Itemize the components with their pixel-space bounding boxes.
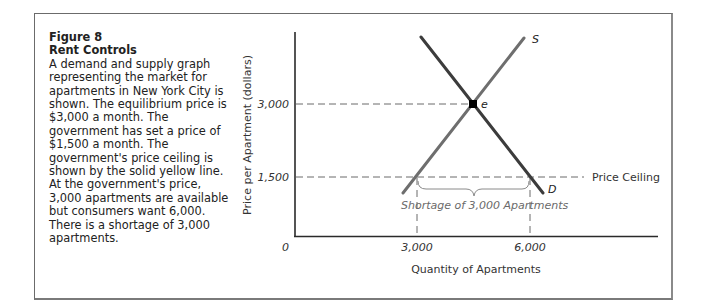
origin-label: 0 [282, 241, 289, 254]
equilibrium-label: e [481, 98, 488, 111]
y-tick-3000: 3,000 [258, 98, 290, 111]
y-tick-1500: 1,500 [258, 171, 290, 184]
supply-curve [403, 38, 524, 193]
y-axis-title: Price per Apartment (dollars) [241, 55, 254, 215]
shortage-brace [418, 181, 529, 196]
demand-curve [421, 37, 543, 193]
supply-demand-chart: S e D Price Ceiling Shortage of 3,000 Ap… [0, 0, 708, 303]
demand-label: D [548, 183, 556, 196]
x-axis-title: Quantity of Apartments [411, 263, 541, 276]
price-ceiling-label: Price Ceiling [592, 171, 660, 184]
supply-label: S [532, 33, 539, 46]
x-tick-3000: 3,000 [401, 241, 433, 254]
equilibrium-point [469, 100, 477, 108]
shortage-label: Shortage of 3,000 Apartments [401, 199, 568, 212]
x-tick-6000: 6,000 [514, 241, 546, 254]
